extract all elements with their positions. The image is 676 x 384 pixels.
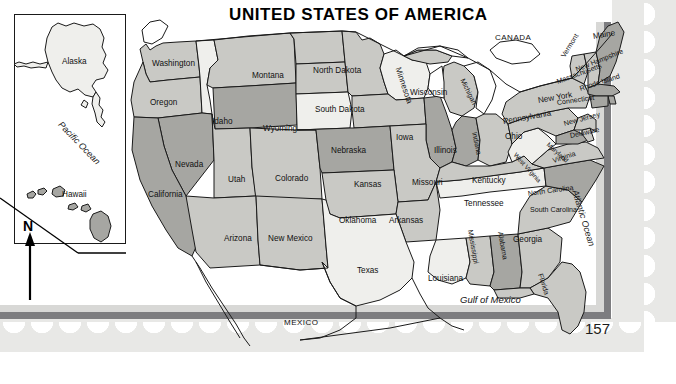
baja-california [192,256,250,346]
state-arizona [186,196,260,268]
state-north-dakota [290,31,345,64]
page-title: UNITED STATES OF AMERICA [229,5,488,25]
lake-michigan [428,66,444,98]
state-south-dakota [296,62,348,94]
north-arrow-graphic [0,198,126,300]
state-mississippi [466,236,494,286]
state-alabama [490,234,522,290]
state-massachusetts [588,84,620,96]
state-oklahoma [322,170,398,218]
mexico-south [300,318,440,340]
alaska-shape [14,23,108,127]
state-florida-panhandle [494,288,534,298]
usa-map-graphic: .s-l{fill:#efefec;stroke:#1a1a1a;stroke-… [0,0,676,384]
state-nebraska [296,92,352,130]
state-louisiana [428,238,470,284]
state-new-mexico [256,196,328,270]
canada-inland-outline [490,40,540,64]
state-colorado [250,128,322,200]
state-indiana [452,116,480,166]
map-page: .s-l{fill:#efefec;stroke:#1a1a1a;stroke-… [0,0,676,384]
state-montana [207,33,296,88]
state-maine [596,22,624,84]
state-connecticut [590,96,608,108]
page-number: 157 [585,320,610,337]
state-wyoming [213,83,297,129]
state-rhode-island [608,96,616,104]
vancouver-island-detail [142,20,168,44]
state-iowa [352,94,426,128]
north-label: N [23,218,33,234]
hawaii-shape [27,186,111,242]
state-washington [140,41,200,82]
